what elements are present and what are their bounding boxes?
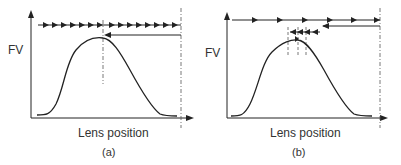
return-arrow-icon: [104, 32, 111, 38]
panel-a: FV Lens position (a): [0, 0, 200, 165]
fine-search-arrows: [290, 29, 318, 35]
peak-arrow-icon: [295, 36, 299, 42]
y-axis-label: FV: [8, 43, 23, 57]
caption-b: (b): [292, 146, 305, 158]
x-axis-arrow-icon: [380, 115, 388, 121]
y-axis-label: FV: [205, 46, 220, 60]
fv-curve: [231, 40, 372, 116]
x-axis-label: Lens position: [78, 126, 149, 140]
return-arrow-icon: [322, 23, 329, 29]
y-axis-arrow-icon: [28, 10, 34, 18]
forward-scan-arrows: [43, 22, 178, 28]
panel-b-graph: [200, 0, 401, 165]
x-axis-arrow-icon: [186, 115, 194, 121]
y-axis-arrow-icon: [224, 12, 230, 20]
panel-a-graph: [0, 0, 200, 165]
caption-a: (a): [102, 146, 115, 158]
fv-curve: [37, 38, 177, 116]
panel-b: FV Lens position (b): [200, 0, 400, 165]
x-axis-label: Lens position: [270, 126, 341, 140]
